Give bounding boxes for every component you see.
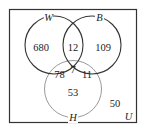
region-all-three: 7 — [70, 64, 75, 75]
set-h-label: H — [68, 112, 78, 123]
venn-diagram: W B H U 680 12 109 78 7 11 53 50 — [0, 0, 144, 131]
region-h-only: 53 — [68, 87, 79, 98]
region-w-only: 680 — [33, 42, 49, 53]
region-b-only: 109 — [95, 42, 111, 53]
region-outside: 50 — [110, 98, 121, 109]
set-w-label: W — [44, 12, 54, 23]
region-w-h-only: 78 — [54, 69, 65, 80]
set-b-label: B — [96, 12, 103, 23]
universe-label: U — [125, 111, 134, 122]
region-b-h-only: 11 — [82, 69, 92, 80]
region-w-b-only: 12 — [68, 42, 79, 53]
